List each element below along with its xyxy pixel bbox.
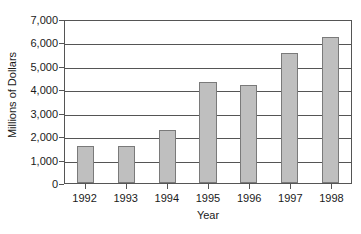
x-axis-tick-label: 1994	[146, 191, 187, 207]
x-axis-tick-mark	[290, 184, 291, 189]
x-tick-slot	[105, 184, 146, 189]
y-axis-tick-label: 6,000	[30, 38, 58, 49]
bar-slot	[106, 21, 147, 183]
plot-area	[64, 20, 352, 184]
bars-layer	[65, 21, 351, 183]
y-axis-title-text: Millions of Dollars	[6, 52, 18, 138]
bar-slot	[269, 21, 310, 183]
x-axis-tick-marks	[64, 184, 352, 189]
x-axis-tick-label: 1993	[105, 191, 146, 207]
x-axis-tick-label: 1995	[187, 191, 228, 207]
x-tick-slot	[270, 184, 311, 189]
x-axis-tick-mark	[208, 184, 209, 189]
y-axis-tick-labels: 01,0002,0003,0004,0005,0006,0007,000	[22, 20, 58, 184]
bar-slot	[188, 21, 229, 183]
bar[interactable]	[322, 37, 339, 183]
x-tick-slot	[146, 184, 187, 189]
x-axis-tick-label: 1996	[229, 191, 270, 207]
x-tick-slot	[311, 184, 352, 189]
y-axis-tick-label: 7,000	[30, 15, 58, 26]
bar-slot	[228, 21, 269, 183]
x-tick-slot	[187, 184, 228, 189]
bar[interactable]	[159, 130, 176, 183]
x-axis-tick-mark	[85, 184, 86, 189]
bar-slot	[147, 21, 188, 183]
x-axis-tick-label: 1998	[311, 191, 352, 207]
x-axis-tick-label: 1992	[64, 191, 105, 207]
x-axis-tick-mark	[126, 184, 127, 189]
y-axis-tick-label: 2,000	[30, 132, 58, 143]
y-axis-tick-label: 0	[52, 179, 58, 190]
x-tick-slot	[64, 184, 105, 189]
bar[interactable]	[281, 53, 298, 183]
x-axis-tick-label: 1997	[270, 191, 311, 207]
bar-slot	[310, 21, 351, 183]
x-axis-tick-labels: 1992199319941995199619971998	[64, 191, 352, 207]
bar-slot	[65, 21, 106, 183]
x-axis-title: Year	[64, 208, 352, 222]
y-axis-tick-label: 5,000	[30, 61, 58, 72]
y-axis-title: Millions of Dollars	[2, 0, 22, 190]
y-axis-tick-label: 3,000	[30, 108, 58, 119]
x-axis-tick-mark	[331, 184, 332, 189]
bar[interactable]	[77, 146, 94, 183]
x-axis-tick-mark	[167, 184, 168, 189]
x-tick-slot	[229, 184, 270, 189]
bar[interactable]	[240, 85, 257, 183]
y-axis-tick-label: 4,000	[30, 85, 58, 96]
bar[interactable]	[118, 146, 135, 183]
bar-chart: Millions of Dollars 01,0002,0003,0004,00…	[0, 0, 361, 234]
bar[interactable]	[199, 82, 216, 183]
y-axis-tick-label: 1,000	[30, 155, 58, 166]
x-axis-tick-mark	[249, 184, 250, 189]
